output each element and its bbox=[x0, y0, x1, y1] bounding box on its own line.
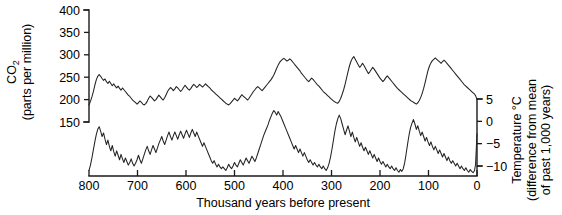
data-series-group bbox=[89, 57, 477, 173]
svg-text:of past 1,000 years): of past 1,000 years) bbox=[539, 85, 553, 195]
co2-tick-label: 150 bbox=[59, 116, 80, 130]
x-tick-label: 800 bbox=[79, 179, 100, 193]
x-tick-label: 300 bbox=[321, 179, 342, 193]
co2-axis: 150200250300350400 bbox=[59, 4, 89, 130]
x-axis: 8007006005004003002001000 bbox=[79, 166, 481, 193]
temperature-axis-title: Temperature °C(difference from meanof pa… bbox=[510, 79, 553, 201]
co2-temperature-figure: 150200250300350400 50−5−10 8007006005004… bbox=[0, 0, 562, 215]
temperature-tick-label: 0 bbox=[486, 115, 493, 129]
temperature-axis: 50−5−10 bbox=[477, 93, 507, 174]
chart-canvas: 150200250300350400 50−5−10 8007006005004… bbox=[0, 0, 562, 215]
x-tick-label: 600 bbox=[176, 179, 197, 193]
co2-tick-label: 300 bbox=[59, 48, 80, 62]
x-axis-title: Thousand years before present bbox=[196, 196, 370, 210]
svg-text:(difference from mean: (difference from mean bbox=[525, 79, 539, 201]
x-tick-label: 100 bbox=[418, 179, 439, 193]
svg-text:(parts per million): (parts per million) bbox=[20, 24, 34, 121]
x-tick-label: 700 bbox=[127, 179, 148, 193]
co2-tick-label: 250 bbox=[59, 71, 80, 85]
temperature-tick-label: −10 bbox=[486, 160, 507, 174]
x-tick-label: 0 bbox=[474, 179, 481, 193]
svg-text:CO2: CO2 bbox=[5, 60, 21, 84]
x-tick-label: 400 bbox=[273, 179, 294, 193]
co2-tick-label: 400 bbox=[59, 4, 80, 18]
co2-tick-label: 200 bbox=[59, 93, 80, 107]
x-tick-label: 500 bbox=[224, 179, 245, 193]
temperature-tick-label: 5 bbox=[486, 93, 493, 107]
temperature-series-line bbox=[89, 111, 477, 173]
co2-series-line bbox=[89, 57, 477, 105]
temperature-tick-label: −5 bbox=[486, 137, 500, 151]
co2-axis-title: CO2(parts per million) bbox=[5, 24, 34, 121]
x-tick-label: 200 bbox=[370, 179, 391, 193]
svg-text:Temperature °C: Temperature °C bbox=[510, 96, 524, 184]
co2-tick-label: 350 bbox=[59, 26, 80, 40]
